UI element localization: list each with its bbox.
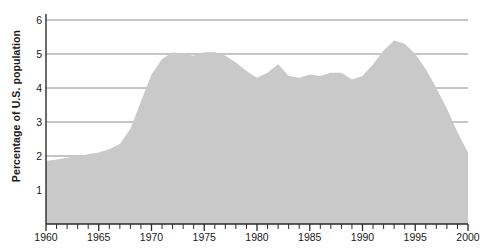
data-area-fill	[46, 40, 468, 224]
x-axis-tick-labels: 196019651970197519801985199019952000	[0, 232, 498, 248]
x-tick-label-1995: 1995	[404, 232, 427, 243]
chart-container: Percentage of U.S. population 6 5 4 3 2 …	[0, 0, 498, 252]
x-tick-label-1975: 1975	[193, 232, 216, 243]
area-chart-plot	[0, 0, 498, 252]
x-tick-label-1965: 1965	[87, 232, 110, 243]
x-tick-label-2000: 2000	[456, 232, 479, 243]
x-tick-label-1990: 1990	[351, 232, 374, 243]
x-tick-label-1980: 1980	[245, 232, 268, 243]
x-tick-label-1985: 1985	[298, 232, 321, 243]
x-tick-label-1960: 1960	[34, 232, 57, 243]
x-tick-label-1970: 1970	[140, 232, 163, 243]
